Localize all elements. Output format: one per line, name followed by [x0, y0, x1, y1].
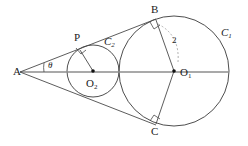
- label-center-o2: O2: [86, 78, 97, 89]
- geometry-canvas: [0, 0, 248, 146]
- radius-o1-c: [156, 71, 174, 124]
- center-dot-o1: [172, 69, 176, 73]
- label-center-o2-sub: 2: [94, 83, 98, 91]
- label-center-o1-name: O: [180, 66, 188, 78]
- label-circle-c2: C2: [104, 36, 115, 47]
- label-circle-c1-sub: 1: [228, 32, 232, 40]
- label-circle-c2-sub: 2: [111, 41, 115, 49]
- label-point-a: A: [13, 66, 21, 77]
- label-point-c: C: [151, 126, 158, 137]
- tangent-line-upper: [20, 19, 156, 72]
- geometry-figure: A B C P θ 2 C1 C2 O1 O2: [0, 0, 248, 146]
- label-radius-value: 2: [172, 36, 177, 45]
- label-center-o1-sub: 1: [188, 72, 192, 80]
- label-angle-theta: θ: [48, 61, 52, 70]
- radius-o1-b: [156, 20, 174, 71]
- label-point-b: B: [151, 4, 158, 15]
- label-center-o1: O1: [180, 67, 191, 78]
- label-circle-c1: C1: [221, 27, 232, 38]
- label-center-o2-name: O: [86, 77, 94, 89]
- label-point-p: P: [74, 32, 80, 43]
- center-dot-o2: [91, 69, 95, 73]
